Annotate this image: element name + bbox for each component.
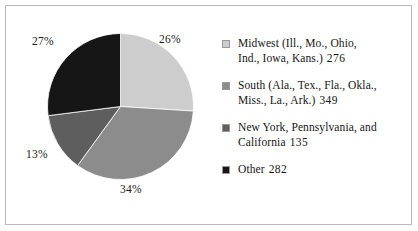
legend-swatch-other (222, 166, 230, 174)
legend-swatch-ny-pa-ca (222, 124, 230, 132)
pie-slice (48, 34, 121, 116)
legend-label-other: Other282 (238, 162, 287, 177)
legend-item-other: Other282 (222, 162, 402, 177)
pie-percent-label-midwest: 26% (159, 33, 181, 45)
pie-percent-label-ny-pa-ca: 13% (26, 148, 48, 160)
legend-label-midwest: Midwest (Ill., Mo., Ohio, Ind., Iowa, Ka… (238, 36, 357, 65)
legend-label-ny-pa-ca-line2: California (238, 136, 286, 148)
legend-count-ny-pa-ca: 135 (290, 136, 308, 148)
pie-percent-label-south: 34% (120, 183, 142, 195)
legend-count-midwest: 276 (327, 52, 345, 64)
legend-item-ny-pa-ca: New York, Pennsylvania, and California13… (222, 120, 402, 149)
pie-percent-label-other: 27% (32, 35, 54, 47)
legend-count-other: 282 (269, 163, 287, 175)
legend-item-midwest: Midwest (Ill., Mo., Ohio, Ind., Iowa, Ka… (222, 36, 402, 65)
pie-chart-figure: 26% 34% 13% 27% Midwest (Ill., Mo., Ohio… (0, 0, 418, 231)
legend-label-midwest-line2: Ind., Iowa, Kans.) (238, 52, 323, 64)
pie-chart-area: 26% 34% 13% 27% (0, 0, 209, 231)
legend-count-south: 349 (319, 94, 337, 106)
pie-slice (121, 34, 194, 112)
legend-label-south-line2: Miss., La., Ark.) (238, 94, 315, 106)
legend-item-south: South (Ala., Tex., Fla., Okla., Miss., L… (222, 78, 402, 107)
legend-swatch-midwest (222, 40, 230, 48)
legend-label-ny-pa-ca: New York, Pennsylvania, and California13… (238, 120, 377, 149)
legend-label-midwest-line1: Midwest (Ill., Mo., Ohio, (238, 37, 357, 49)
pie-slice-group (48, 34, 194, 180)
legend-label-ny-pa-ca-line1: New York, Pennsylvania, and (238, 121, 377, 133)
legend-swatch-south (222, 82, 230, 90)
legend-label-south-line1: South (Ala., Tex., Fla., Okla., (238, 79, 377, 91)
legend-label-south: South (Ala., Tex., Fla., Okla., Miss., L… (238, 78, 377, 107)
legend-label-other-line1: Other (238, 163, 265, 175)
chart-legend: Midwest (Ill., Mo., Ohio, Ind., Iowa, Ka… (222, 36, 402, 190)
